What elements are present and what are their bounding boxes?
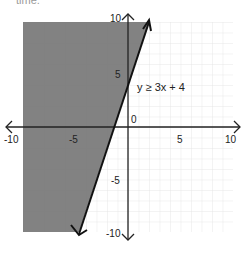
x-tick-neg10: -10 [4,134,19,145]
y-tick-neg10: -10 [106,228,121,239]
x-tick-5: 5 [177,134,183,145]
x-tick-10: 10 [225,134,237,145]
x-tick-neg5: -5 [69,134,78,145]
inequality-label: y ≥ 3x + 4 [137,81,185,93]
y-tick-5: 5 [115,69,121,80]
inequality-graph: -10 -5 5 10 10 5 -5 -10 0 y ≥ 3x + 4 [0,0,249,256]
y-tick-neg5: -5 [111,175,120,186]
y-tick-10: 10 [110,13,122,24]
origin-label: 0 [131,114,137,125]
